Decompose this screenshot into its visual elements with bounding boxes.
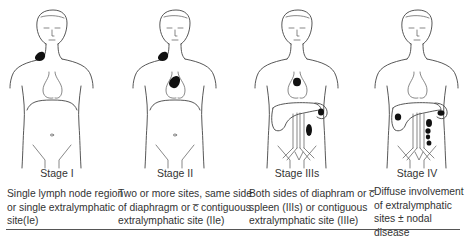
body-outline-icon: [115, 0, 235, 172]
stage-label: Stage IIIs: [237, 167, 357, 179]
description-line: Both sides of diaphram or c̅: [249, 187, 374, 201]
description-line: extralymphatic site (IIIe): [249, 214, 374, 228]
body-outline-icon: [237, 0, 357, 172]
description-line: Diffuse involvement: [374, 185, 469, 199]
description-line: extralymphatic site (IIe): [118, 214, 252, 228]
stage-3s-figure: Stage IIIs: [237, 0, 357, 172]
stage-label: Stage I: [0, 167, 117, 179]
divider-rule: [6, 229, 460, 230]
stage-1-description: Single lymph node region or single extra…: [7, 187, 123, 228]
description-line: or single extralymphatic: [7, 201, 123, 215]
stage-3s-description: Both sides of diaphram or c̅ spleen (III…: [249, 187, 374, 228]
body-outline-icon: [0, 0, 117, 172]
description-line: site(Ie): [7, 214, 123, 228]
stage-2-description: Two or more sites, same side of diaphrag…: [118, 187, 252, 228]
stage-label: Stage II: [115, 167, 235, 179]
description-line: Single lymph node region: [7, 187, 123, 201]
stage-label: Stage IV: [357, 167, 469, 179]
stage-4-figure: Stage IV: [357, 0, 469, 172]
description-line: of extralymphatic: [374, 199, 469, 213]
description-line: Two or more sites, same side: [118, 187, 252, 201]
description-line: sites ± nodal disease: [374, 212, 469, 237]
stage-2-figure: Stage II: [115, 0, 235, 172]
description-line: spleen (IIIs) or contiguous: [249, 201, 374, 215]
description-line: of diaphragm or c̅ contiguous: [118, 201, 252, 215]
stage-1-figure: Stage I: [0, 0, 117, 172]
body-outline-icon: [357, 0, 469, 172]
